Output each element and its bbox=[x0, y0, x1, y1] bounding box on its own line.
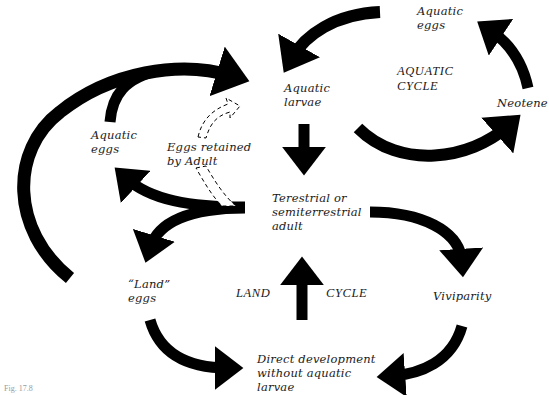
node-aquatic-larvae: Aquatic larvae bbox=[284, 81, 330, 109]
arrow-eggs-to-larvae bbox=[292, 12, 380, 58]
label-land: LAND bbox=[236, 286, 270, 301]
node-land-eggs: “Land” eggs bbox=[128, 277, 170, 305]
arrow-larvae-to-neotene bbox=[358, 126, 508, 156]
node-adult: Terestrial or semiterrestrial adult bbox=[272, 191, 362, 233]
figure-caption-fragment: Fig. 17.8 bbox=[4, 384, 33, 393]
node-viviparity: Viviparity bbox=[433, 289, 491, 303]
node-aquatic-eggs-left: Aquatic eggs bbox=[91, 128, 137, 156]
node-eggs-retained: Eggs retained by Adult bbox=[167, 140, 251, 168]
life-cycle-diagram: Aquatic eggs Aquatic larvae AQUATIC CYCL… bbox=[0, 0, 549, 395]
arrow-viviparity-to-direct bbox=[392, 326, 462, 376]
node-direct-development: Direct development without aquatic larva… bbox=[257, 352, 376, 394]
arrow-eggs-retained-up bbox=[198, 98, 240, 138]
node-aquatic-eggs-top: Aquatic eggs bbox=[417, 4, 463, 32]
node-neotene: Neotene bbox=[497, 96, 548, 110]
label-aquatic-cycle: AQUATIC CYCLE bbox=[397, 64, 454, 94]
arrow-adult-to-land-eggs bbox=[150, 208, 245, 248]
label-cycle: CYCLE bbox=[326, 286, 367, 301]
arrow-adult-to-viviparity bbox=[370, 212, 462, 262]
arrow-neotene-to-eggs bbox=[490, 30, 528, 88]
arrow-land-eggs-to-direct bbox=[150, 320, 228, 368]
